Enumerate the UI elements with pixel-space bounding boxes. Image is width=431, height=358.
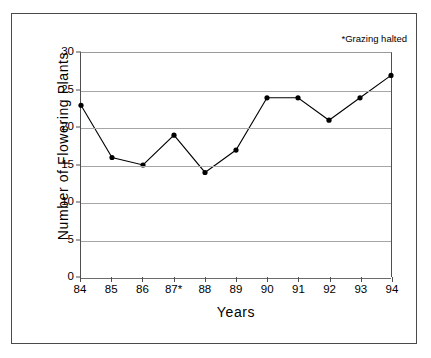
x-tick-mark [80, 277, 81, 282]
y-tick-label: 15 [61, 159, 74, 171]
x-axis-title: Years [80, 304, 392, 320]
y-tick-label: 5 [68, 234, 74, 246]
x-tick-mark [174, 277, 175, 282]
gridline [81, 166, 391, 167]
chart-figure: *Grazing halted Number of Flowering Plan… [0, 0, 431, 358]
y-tick-mark [76, 52, 81, 53]
data-point-marker: 90: 24 [264, 95, 269, 100]
x-tick-label: 86 [136, 283, 149, 296]
x-tick-label: 85 [105, 283, 118, 296]
x-tick-mark [111, 277, 112, 282]
y-tick-mark [76, 89, 81, 90]
x-tick-mark [330, 277, 331, 282]
x-axis-tick-labels: 84858687*88899091929394 [80, 283, 392, 299]
x-tick-mark [142, 277, 143, 282]
x-tick-mark [267, 277, 268, 282]
x-tick-mark [392, 277, 393, 282]
x-tick-mark [205, 277, 206, 282]
y-axis-tick-labels: 051015202530 [52, 52, 74, 277]
gridline [81, 241, 391, 242]
data-point-marker: 94: 27 [388, 73, 393, 78]
data-point-marker: 84: 23 [78, 103, 83, 108]
x-tick-mark [298, 277, 299, 282]
x-tick-label: 94 [386, 283, 399, 296]
x-tick-label: 92 [323, 283, 336, 296]
data-point-marker: 93: 24 [357, 95, 362, 100]
y-tick-mark [76, 239, 81, 240]
x-tick-label: 88 [198, 283, 211, 296]
x-tick-mark [236, 277, 237, 282]
x-tick-label: 84 [74, 283, 87, 296]
x-tick-label: 91 [292, 283, 305, 296]
y-tick-mark [76, 164, 81, 165]
gridline [81, 203, 391, 204]
data-point-marker: 87*: 19 [171, 133, 176, 138]
data-point-marker: 85: 16 [109, 155, 114, 160]
gridline [81, 128, 391, 129]
data-point-marker: 89: 17 [233, 147, 238, 152]
y-tick-label: 10 [61, 196, 74, 208]
plot-area: 84: 2385: 1686: 1587*: 1988: 1489: 1790:… [80, 52, 392, 277]
x-tick-mark [361, 277, 362, 282]
y-tick-label: 30 [61, 46, 74, 58]
y-tick-label: 20 [61, 121, 74, 133]
y-tick-mark [76, 202, 81, 203]
data-point-marker: 88: 14 [202, 170, 207, 175]
x-tick-label: 89 [230, 283, 243, 296]
y-tick-label: 25 [61, 84, 74, 96]
x-tick-label: 90 [261, 283, 274, 296]
x-tick-label: 93 [354, 283, 367, 296]
gridline [81, 91, 391, 92]
x-tick-label: 87* [165, 283, 182, 296]
y-tick-label: 0 [68, 271, 74, 283]
grazing-halted-annotation: *Grazing halted [342, 33, 407, 44]
data-point-marker: 91: 24 [295, 95, 300, 100]
data-point-marker: 92: 21 [326, 118, 331, 123]
y-tick-mark [76, 127, 81, 128]
